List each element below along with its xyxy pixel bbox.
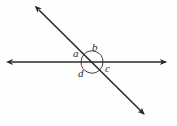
angle-label-a: a (73, 48, 79, 59)
arc-c (100, 62, 103, 70)
angle-label-b: b (92, 42, 98, 53)
arc-a (81, 54, 84, 62)
angle-label-c: c (105, 63, 110, 74)
angle-label-d: d (78, 68, 84, 79)
intersecting-lines-svg (0, 0, 177, 126)
geometry-figure: a b c d (0, 0, 177, 126)
